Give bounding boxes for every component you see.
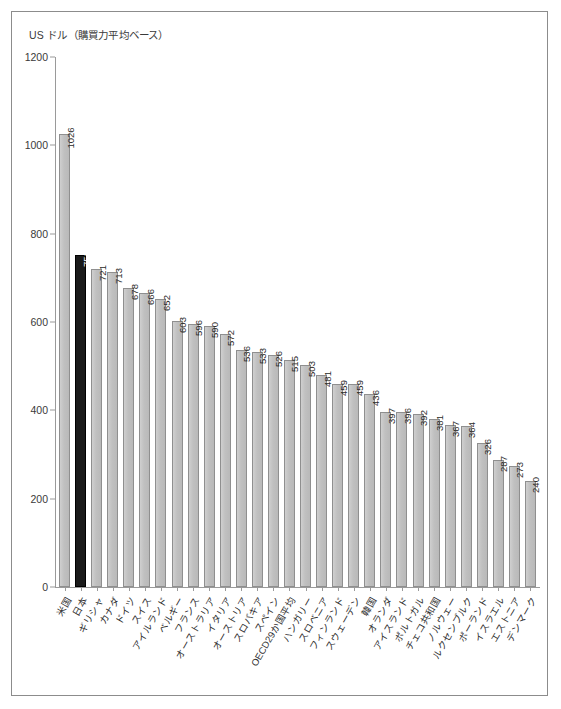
- bar[interactable]: 367: [445, 425, 456, 587]
- bar[interactable]: 273: [509, 466, 520, 587]
- x-axis-tick-mark: [434, 587, 435, 591]
- chart-page: US ドル（購買力平均ベース） 020040060080010001200 10…: [0, 0, 561, 709]
- bar-value-label: 572: [225, 330, 236, 346]
- bar[interactable]: 364: [461, 426, 472, 587]
- bar-value-label: 590: [209, 322, 220, 338]
- bar-value-label: 666: [145, 289, 156, 305]
- x-axis-tick-mark: [354, 587, 355, 591]
- bar[interactable]: 459: [332, 384, 343, 587]
- y-axis-title: US ドル（購買力平均ベース）: [29, 27, 169, 42]
- x-axis-tick-mark: [450, 587, 451, 591]
- bar-value-label: 752: [81, 251, 92, 267]
- x-axis-tick-mark: [225, 587, 226, 591]
- bar[interactable]: 533: [252, 352, 263, 587]
- bar-value-label: 367: [450, 421, 461, 437]
- bar-value-label: 536: [241, 346, 252, 362]
- bar[interactable]: 603: [172, 321, 183, 587]
- bar[interactable]: 392: [413, 414, 424, 587]
- bar-value-label: 381: [434, 415, 445, 431]
- bar-value-label: 503: [306, 361, 317, 377]
- bar[interactable]: 503: [300, 365, 311, 587]
- x-axis-tick-mark: [209, 587, 210, 591]
- bar[interactable]: 436: [364, 394, 375, 587]
- bar[interactable]: 459: [348, 384, 359, 587]
- bar-value-label: 364: [466, 422, 477, 438]
- bar[interactable]: 326: [477, 443, 488, 587]
- bar-value-label: 652: [161, 295, 172, 311]
- x-axis-tick-mark: [257, 587, 258, 591]
- x-axis-tick-mark: [193, 587, 194, 591]
- bar-value-label: 596: [193, 320, 204, 336]
- x-axis-tick-mark: [289, 587, 290, 591]
- x-axis-tick-mark: [97, 587, 98, 591]
- bar[interactable]: 590: [204, 326, 215, 587]
- x-axis-tick-mark: [498, 587, 499, 591]
- bar-value-label: 1026: [65, 127, 76, 148]
- x-axis-tick-mark: [514, 587, 515, 591]
- bar[interactable]: 481: [316, 375, 327, 587]
- x-axis-tick-mark: [306, 587, 307, 591]
- x-axis-tick-mark: [386, 587, 387, 591]
- x-axis-tick-mark: [145, 587, 146, 591]
- x-axis-tick-mark: [81, 587, 82, 591]
- x-axis-tick-mark: [466, 587, 467, 591]
- x-axis-tick-mark: [129, 587, 130, 591]
- bar[interactable]: 752: [75, 255, 86, 587]
- x-axis-tick-mark: [161, 587, 162, 591]
- plot-area: 020040060080010001200 102675272171367866…: [55, 57, 537, 587]
- bar[interactable]: 721: [91, 269, 102, 587]
- x-axis-tick-mark: [273, 587, 274, 591]
- bar-value-label: 287: [498, 456, 509, 472]
- bar-value-label: 713: [113, 268, 124, 284]
- x-axis-tick-mark: [241, 587, 242, 591]
- bar-value-label: 326: [482, 439, 493, 455]
- bar-value-label: 392: [418, 410, 429, 426]
- x-axis-tick-mark: [177, 587, 178, 591]
- bar[interactable]: 287: [493, 460, 504, 587]
- bar-value-label: 397: [386, 408, 397, 424]
- bar-value-label: 481: [322, 371, 333, 387]
- bar-value-label: 396: [402, 408, 413, 424]
- bar[interactable]: 396: [396, 412, 407, 587]
- bar[interactable]: 596: [188, 324, 199, 587]
- bar[interactable]: 678: [123, 288, 134, 587]
- bar[interactable]: 515: [284, 360, 295, 587]
- bar-value-label: 515: [289, 356, 300, 372]
- bar-value-label: 240: [530, 477, 541, 493]
- bar-value-label: 459: [338, 380, 349, 396]
- x-axis-tick-mark: [322, 587, 323, 591]
- bar-value-label: 436: [370, 391, 381, 407]
- x-axis-tick-mark: [113, 587, 114, 591]
- bar-series: 1026752721713678666652603596590572536533…: [55, 57, 537, 587]
- x-axis-tick-mark: [338, 587, 339, 591]
- bar[interactable]: 536: [236, 350, 247, 587]
- bar-value-label: 721: [97, 265, 108, 281]
- x-axis-line: [55, 587, 540, 588]
- x-axis-tick-mark: [482, 587, 483, 591]
- x-axis-tick-mark: [65, 587, 66, 591]
- x-axis-tick-mark: [370, 587, 371, 591]
- bar[interactable]: 240: [525, 481, 536, 587]
- bar[interactable]: 526: [268, 355, 279, 587]
- bar[interactable]: 713: [107, 272, 118, 587]
- bar-value-label: 533: [257, 348, 268, 364]
- bar-value-label: 526: [273, 351, 284, 367]
- x-axis-tick-mark: [402, 587, 403, 591]
- bar-value-label: 459: [354, 380, 365, 396]
- bar[interactable]: 572: [220, 334, 231, 587]
- x-axis-tick-mark: [530, 587, 531, 591]
- bar[interactable]: 666: [139, 293, 150, 587]
- bar-value-label: 273: [514, 463, 525, 479]
- bar[interactable]: 381: [429, 419, 440, 587]
- bar[interactable]: 652: [155, 299, 166, 587]
- bar-value-label: 603: [177, 317, 188, 333]
- x-axis-tick-mark: [418, 587, 419, 591]
- bar[interactable]: 1026: [59, 134, 70, 587]
- bar-value-label: 678: [129, 284, 140, 300]
- bar[interactable]: 397: [380, 412, 391, 587]
